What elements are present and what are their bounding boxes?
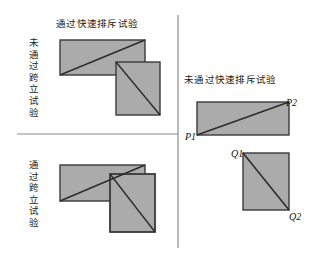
- bottom-left-row-label: 通过跨立试验: [28, 160, 38, 252]
- bottom-left-shape-group: [60, 165, 155, 232]
- figure-canvas: 通过快速排斥试验 未通过快速排斥试验 未通过跨立试验 通过跨立试验 P1 P2 …: [0, 0, 317, 263]
- top-left-panel-title: 通过快速排斥试验: [56, 16, 138, 30]
- point-label-q1: Q1: [231, 148, 243, 159]
- top-left-shape-group: [60, 40, 160, 115]
- top-left-row-label: 未通过跨立试验: [28, 38, 38, 134]
- point-label-p1: P1: [185, 131, 196, 142]
- segment-intersection-diagram: [0, 0, 317, 263]
- point-label-p2: P2: [286, 97, 297, 108]
- point-label-q2: Q2: [289, 211, 301, 222]
- right-panel-title: 未通过快速排斥试验: [184, 72, 277, 86]
